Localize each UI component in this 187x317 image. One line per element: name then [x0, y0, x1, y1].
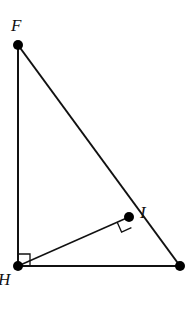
point-H	[13, 261, 23, 271]
segment-FJ	[18, 45, 180, 266]
label-H: H	[0, 270, 12, 289]
segment-HI	[18, 217, 129, 266]
point-F	[13, 40, 23, 50]
point-I	[124, 212, 134, 222]
point-J	[175, 261, 185, 271]
label-F: F	[10, 16, 22, 35]
triangle-diagram: F I H	[0, 0, 187, 317]
right-angle-marker-I	[117, 222, 131, 232]
